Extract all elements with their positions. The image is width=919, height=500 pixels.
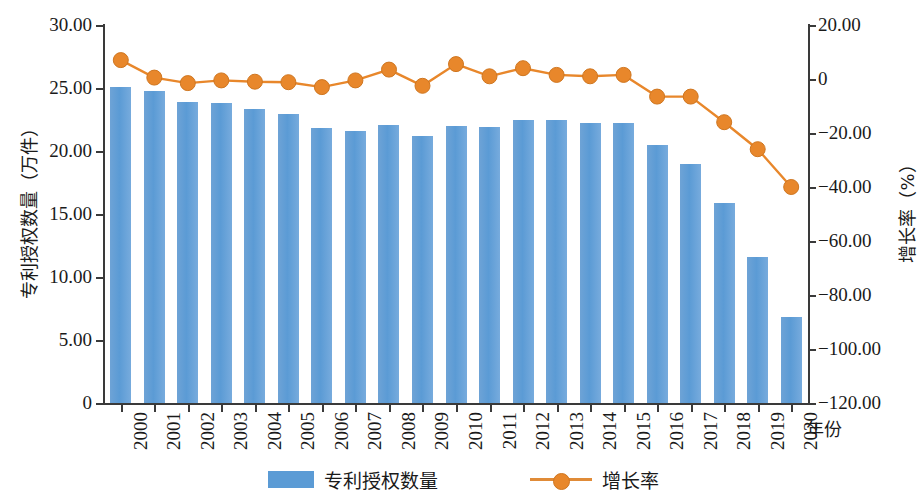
y-left-tick-mark-2 [96, 151, 104, 153]
x-tick-mark-2015 [624, 403, 626, 412]
growth-rate-point-2007 [348, 73, 363, 88]
x-tick-mark-2008 [389, 403, 391, 412]
legend-line-swatch-icon [530, 471, 592, 488]
x-tick-label-2000: 2000 [130, 412, 152, 450]
growth-rate-point-2008 [382, 62, 397, 77]
x-tick-mark-2000 [121, 403, 123, 412]
x-tick-label-2011: 2011 [499, 412, 521, 449]
x-tick-label-2012: 2012 [532, 412, 554, 450]
y-right-tick-mark-3 [808, 187, 816, 189]
x-tick-mark-2002 [188, 403, 190, 412]
y-axis-right-title: 增长率（%） [893, 59, 919, 359]
y-right-tick-mark-6 [808, 349, 816, 351]
x-tick-label-2018: 2018 [733, 412, 755, 450]
growth-rate-point-2006 [314, 80, 329, 95]
y-left-tick-1: 25.00 [49, 77, 92, 99]
x-tick-label-2001: 2001 [163, 412, 185, 450]
x-tick-label-2020: 2020 [800, 412, 822, 450]
y-axis-left-ticks: 30.00 25.00 20.00 15.00 10.00 5.00 0 [0, 0, 92, 500]
growth-rate-line-series [104, 25, 808, 403]
growth-rate-point-2016 [650, 89, 665, 104]
x-tick-label-2003: 2003 [230, 412, 252, 450]
y-left-tick-4: 10.00 [49, 266, 92, 288]
y-left-tick-2: 20.00 [49, 140, 92, 162]
growth-rate-point-2005 [281, 75, 296, 90]
x-tick-mark-2016 [657, 403, 659, 412]
x-tick-label-2008: 2008 [398, 412, 420, 450]
x-tick-label-2015: 2015 [633, 412, 655, 450]
y-right-tick-4: −60.00 [818, 230, 871, 252]
legend-item-growth-rate[interactable]: 增长率 [530, 466, 659, 493]
y-left-tick-mark-3 [96, 214, 104, 216]
growth-rate-point-2012 [516, 61, 531, 76]
growth-rate-point-2010 [449, 57, 464, 72]
x-tick-mark-2018 [724, 403, 726, 412]
growth-rate-point-2018 [717, 115, 732, 130]
x-tick-mark-2001 [154, 403, 156, 412]
x-tick-label-2009: 2009 [431, 412, 453, 450]
x-tick-mark-2020 [791, 403, 793, 412]
x-tick-mark-2009 [422, 403, 424, 412]
x-tick-mark-2004 [255, 403, 257, 412]
y-left-tick-6: 0 [83, 392, 93, 414]
y-right-tick-0: 20.00 [818, 14, 861, 36]
y-left-tick-mark-4 [96, 277, 104, 279]
legend-bar-swatch-icon [268, 471, 314, 488]
y-right-tick-5: −80.00 [818, 284, 871, 306]
x-tick-mark-2010 [456, 403, 458, 412]
growth-rate-point-2017 [683, 89, 698, 104]
x-tick-label-2019: 2019 [767, 412, 789, 450]
growth-rate-point-2001 [147, 70, 162, 85]
x-tick-mark-2017 [691, 403, 693, 412]
y-left-tick-mark-1 [96, 88, 104, 90]
x-tick-label-2014: 2014 [599, 412, 621, 450]
y-right-tick-2: −20.00 [818, 122, 871, 144]
x-tick-mark-2019 [758, 403, 760, 412]
y-left-tick-0: 30.00 [49, 14, 92, 36]
x-tick-mark-2007 [355, 403, 357, 412]
growth-rate-point-2003 [214, 73, 229, 88]
legend-label-patent-count: 专利授权数量 [324, 466, 438, 493]
x-tick-label-2005: 2005 [297, 412, 319, 450]
x-tick-label-2013: 2013 [566, 412, 588, 450]
growth-rate-point-2015 [616, 67, 631, 82]
y-right-tick-1: 0 [818, 68, 828, 90]
y-left-tick-mark-6 [96, 403, 104, 405]
x-tick-label-2017: 2017 [700, 412, 722, 450]
x-tick-mark-2013 [557, 403, 559, 412]
y-right-tick-mark-7 [808, 403, 816, 405]
growth-rate-point-2002 [180, 76, 195, 91]
x-tick-mark-2005 [288, 403, 290, 412]
y-axis-right-line [808, 24, 810, 405]
y-right-tick-mark-2 [808, 133, 816, 135]
y-axis-left-title: 专利授权数量（万件） [15, 59, 41, 359]
growth-rate-point-2013 [549, 67, 564, 82]
legend-item-patent-count[interactable]: 专利授权数量 [268, 466, 438, 493]
growth-rate-point-2019 [750, 142, 765, 157]
x-tick-label-2006: 2006 [331, 412, 353, 450]
x-tick-mark-2003 [221, 403, 223, 412]
growth-rate-point-2009 [415, 78, 430, 93]
y-left-tick-mark-5 [96, 340, 104, 342]
x-tick-label-2002: 2002 [197, 412, 219, 450]
x-tick-label-2010: 2010 [465, 412, 487, 450]
growth-rate-point-2020 [784, 180, 799, 195]
x-tick-label-2016: 2016 [666, 412, 688, 450]
growth-rate-point-2004 [247, 74, 262, 89]
y-right-tick-mark-4 [808, 241, 816, 243]
chart-legend: 专利授权数量 增长率 [0, 466, 914, 500]
x-tick-mark-2011 [490, 403, 492, 412]
growth-rate-point-2014 [583, 69, 598, 84]
y-left-tick-5: 5.00 [59, 329, 92, 351]
y-right-tick-mark-5 [808, 295, 816, 297]
y-right-tick-3: −40.00 [818, 176, 871, 198]
growth-rate-point-2000 [113, 53, 128, 68]
x-tick-mark-2012 [523, 403, 525, 412]
x-tick-label-2004: 2004 [264, 412, 286, 450]
y-right-tick-mark-0 [808, 25, 816, 27]
x-tick-label-2007: 2007 [364, 412, 386, 450]
x-tick-mark-2014 [590, 403, 592, 412]
y-right-tick-6: −100.00 [818, 338, 881, 360]
legend-label-growth-rate: 增长率 [602, 466, 659, 493]
